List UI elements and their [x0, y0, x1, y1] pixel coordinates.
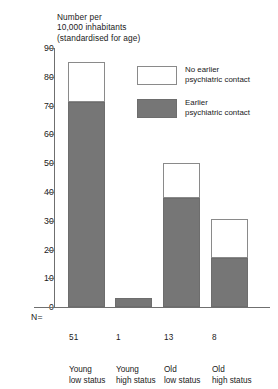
bar-segment-no-earlier-contact	[211, 219, 248, 258]
bar-segment-no-earlier-contact	[68, 62, 105, 102]
bar-old-low-status[interactable]	[163, 163, 200, 307]
bar-young-low-status[interactable]	[68, 62, 105, 307]
y-tick-40: 40	[0, 192, 54, 193]
y-tick-80: 80	[0, 77, 54, 78]
bar-segment-no-earlier-contact	[163, 163, 200, 198]
x-category-n-value: 13	[164, 333, 200, 344]
legend-swatch-earlier-contact	[137, 99, 177, 118]
y-tick-0: 0	[0, 307, 54, 308]
x-category-old-high-status: 8 Old high status	[212, 312, 252, 389]
legend-label-earlier-contact: Earlier psychiatric contact	[185, 98, 250, 117]
x-category-label: Young low status	[69, 365, 105, 386]
x-category-n-value: 8	[212, 333, 252, 344]
bar-segment-earlier-contact	[163, 198, 200, 307]
y-tick-20: 20	[0, 250, 54, 251]
x-category-n-value: 51	[69, 333, 105, 344]
y-tick-50: 50	[0, 163, 54, 164]
x-category-old-low-status: 13 Old low status	[164, 312, 200, 389]
bar-young-high-status[interactable]	[115, 298, 152, 307]
y-tick-60: 60	[0, 134, 54, 135]
bar-segment-earlier-contact	[68, 102, 105, 307]
x-category-young-low-status: 51 Young low status	[69, 312, 105, 389]
y-tick-90: 90	[0, 48, 54, 49]
x-category-label: Old high status	[212, 365, 252, 386]
x-axis-line	[34, 307, 270, 308]
x-category-young-high-status: 1 Young high status	[116, 312, 156, 389]
y-axis-line	[54, 48, 55, 308]
legend-swatch-no-earlier-contact	[137, 66, 177, 85]
y-tick-70: 70	[0, 106, 54, 107]
bar-segment-earlier-contact	[115, 298, 152, 307]
legend-label-no-earlier-contact: No earlier psychiatric contact	[185, 65, 250, 84]
bar-old-high-status[interactable]	[211, 219, 248, 307]
y-tick-10: 10	[0, 278, 54, 279]
x-category-n-value: 1	[116, 333, 156, 344]
x-category-label: Old low status	[164, 365, 200, 386]
x-category-label: Young high status	[116, 365, 156, 386]
y-tick-30: 30	[0, 221, 54, 222]
bar-segment-earlier-contact	[211, 258, 248, 307]
n-equals-label: N=	[31, 313, 43, 322]
